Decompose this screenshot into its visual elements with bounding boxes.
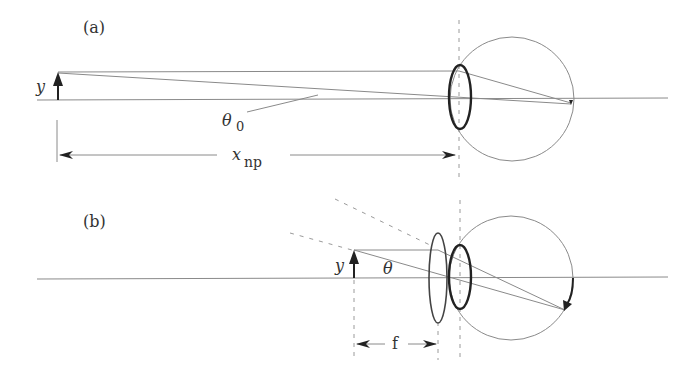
virtual-ray-upper-b: [335, 199, 432, 246]
panel-b: (b) y θ f: [37, 199, 668, 360]
retinal-image-shaft-b: [567, 278, 573, 304]
angle-subscript-a: 0: [236, 119, 244, 134]
optical-axis-a: [37, 98, 668, 100]
distance-subscript-a: np: [244, 154, 262, 170]
distance-label-b: f: [392, 334, 399, 353]
object-arrow-head-a: [53, 72, 63, 86]
object-arrow-head-b: [349, 250, 359, 264]
optics-diagram: (a) y θ 0 x np (b): [0, 0, 697, 379]
angle-leader-a: [247, 95, 318, 112]
virtual-ray-lower-b: [290, 233, 352, 250]
object-label-b: y: [334, 256, 345, 275]
panel-b-label: (b): [83, 212, 106, 231]
angle-label-a: θ: [222, 111, 232, 130]
distance-label-a: x: [232, 145, 241, 164]
panel-a-label: (a): [83, 18, 105, 37]
angle-label-b: θ: [383, 259, 393, 278]
panel-a: (a) y θ 0 x np: [35, 18, 668, 178]
object-label-a: y: [35, 77, 46, 96]
